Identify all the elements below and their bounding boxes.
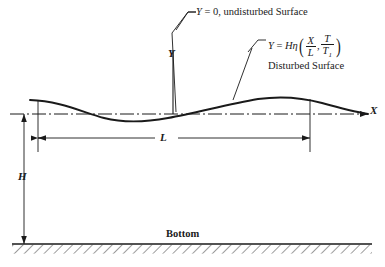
depth-label: H xyxy=(18,170,27,183)
open-paren: ( xyxy=(299,37,304,55)
wave-definition-figure: Y = 0, undisturbed Surface Y = Hη ( X L … xyxy=(0,0,385,267)
fraction-numerator-x: X xyxy=(306,35,316,46)
fraction-t-over-t1: T T1 xyxy=(321,33,334,59)
disturbed-surface-equation: Y = Hη ( X L , T T1 ) xyxy=(268,33,342,59)
y0-rest: = 0, undisturbed Surface xyxy=(202,6,308,17)
disturbed-surface-label: Disturbed Surface xyxy=(268,60,344,72)
denominator-subscript: 1 xyxy=(328,51,332,59)
wavelength-label: L xyxy=(160,131,167,144)
bottom-boundary xyxy=(12,244,372,254)
fraction-numerator-t: T xyxy=(321,33,334,44)
fraction-denominator-l: L xyxy=(306,46,316,58)
fraction-x-over-l: X L xyxy=(306,35,316,58)
bottom-label: Bottom xyxy=(166,228,199,240)
x-axis-label: X xyxy=(370,104,377,117)
wave-curve xyxy=(30,97,368,121)
leader-undisturbed-surface xyxy=(172,12,196,112)
y-axis-label: Y xyxy=(168,47,175,60)
equation-eta: η xyxy=(293,40,298,52)
equation-equals: = xyxy=(274,40,285,52)
equation-comma: , xyxy=(317,40,320,52)
fraction-denominator-t1: T1 xyxy=(321,44,334,59)
leader-disturbed-surface xyxy=(233,40,266,100)
equation-amplitude: H xyxy=(285,40,293,52)
undisturbed-surface-label: Y = 0, undisturbed Surface xyxy=(196,6,308,18)
wavelength-dimension xyxy=(38,99,310,152)
close-paren: ) xyxy=(336,37,341,55)
